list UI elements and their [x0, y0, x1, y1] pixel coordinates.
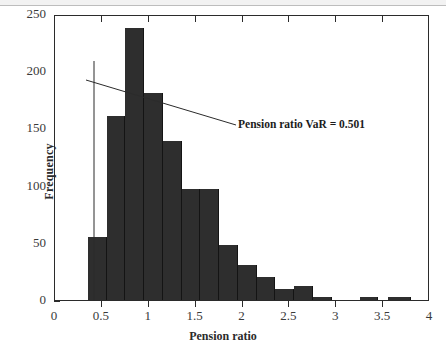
y-tick-label: 250: [0, 6, 46, 22]
y-tick-label: 0: [0, 292, 46, 308]
x-tick-mark-top: [148, 16, 149, 22]
histogram-bar: [275, 289, 294, 300]
x-tick-label: 2: [222, 308, 262, 324]
histogram-bar: [182, 189, 201, 300]
x-tick-mark: [195, 301, 196, 307]
histogram-bar: [360, 297, 379, 300]
histogram-bar: [144, 93, 163, 300]
x-axis-label: Pension ratio: [0, 329, 446, 344]
histogram-bar: [238, 265, 257, 300]
histogram-bar: [388, 297, 411, 300]
plot-area: Frequency: [54, 15, 429, 301]
histogram-bar: [88, 237, 107, 300]
x-tick-label: 3: [315, 308, 355, 324]
x-tick-mark: [382, 301, 383, 307]
y-tick-mark: [54, 301, 60, 302]
x-tick-label: 1.5: [175, 308, 215, 324]
x-tick-mark: [335, 301, 336, 307]
histogram-bar: [163, 141, 182, 300]
x-tick-label: 0.5: [81, 308, 121, 324]
x-tick-mark: [288, 301, 289, 307]
x-tick-mark-top: [382, 16, 383, 22]
x-tick-label: 1: [128, 308, 168, 324]
histogram-bar: [313, 297, 332, 300]
histogram-bar: [219, 245, 238, 300]
histogram-bars: [55, 16, 428, 300]
y-axis-label: Frequency: [42, 143, 57, 199]
x-tick-mark-top: [101, 16, 102, 22]
histogram-bar: [257, 277, 276, 300]
histogram-bar: [200, 189, 219, 300]
top-divider-line: [0, 5, 446, 6]
x-tick-mark-top: [288, 16, 289, 22]
var-annotation-label: Pension ratio VaR = 0.501: [238, 118, 365, 130]
y-tick-label: 50: [0, 235, 46, 251]
x-tick-mark: [242, 301, 243, 307]
histogram-bar: [107, 116, 126, 300]
x-tick-mark-top: [195, 16, 196, 22]
x-tick-label: 4: [409, 308, 446, 324]
histogram-bar: [125, 28, 144, 300]
x-tick-mark: [148, 301, 149, 307]
x-tick-label: 0: [34, 308, 74, 324]
histogram-figure: 050100150200250 Frequency 00.511.522.533…: [0, 0, 446, 353]
y-tick-label: 100: [0, 178, 46, 194]
x-tick-mark-top: [242, 16, 243, 22]
x-tick-label: 3.5: [362, 308, 402, 324]
x-tick-label: 2.5: [268, 308, 308, 324]
y-tick-label: 150: [0, 120, 46, 136]
x-tick-mark-top: [335, 16, 336, 22]
histogram-bar: [294, 286, 313, 300]
x-tick-mark: [101, 301, 102, 307]
y-tick-label: 200: [0, 63, 46, 79]
